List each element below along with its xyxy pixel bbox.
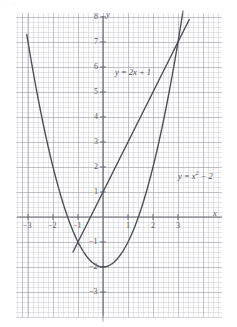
parabola-eq-suffix: − 2 <box>199 171 213 181</box>
x-tick-label-2: 2 <box>151 222 155 230</box>
x-tick-label--2: −2 <box>48 222 57 230</box>
y-tick-label--1: −1 <box>89 238 98 246</box>
y-tick-label-6: 6 <box>94 63 98 71</box>
y-tick-label-4: 4 <box>94 113 98 121</box>
y-axis-label: y <box>106 10 110 19</box>
graph-figure: (a) <box>0 0 237 327</box>
x-tick-label--3: −3 <box>23 222 32 230</box>
y-tick-label-8: 8 <box>94 13 98 21</box>
annotation-parabola-equation: y = x2 − 2 <box>178 170 213 180</box>
x-tick-label--1: −1 <box>73 222 82 230</box>
parabola-eq-prefix: y = x <box>178 171 196 181</box>
y-tick-label-7: 7 <box>94 38 98 46</box>
y-tick-label-5: 5 <box>94 88 98 96</box>
y-tick-label-2: 2 <box>94 163 98 171</box>
annotation-line-equation: y = 2x + 1 <box>115 68 151 77</box>
x-axis-label: x <box>213 209 217 218</box>
x-tick-label-1: 1 <box>126 222 130 230</box>
y-tick-label--2: −2 <box>89 263 98 271</box>
y-tick-label-1: 1 <box>94 188 98 196</box>
y-tick-label-3: 3 <box>94 138 98 146</box>
y-tick-label--3: −3 <box>89 288 98 296</box>
x-tick-label-3: 3 <box>176 222 180 230</box>
plot-area <box>0 0 237 327</box>
